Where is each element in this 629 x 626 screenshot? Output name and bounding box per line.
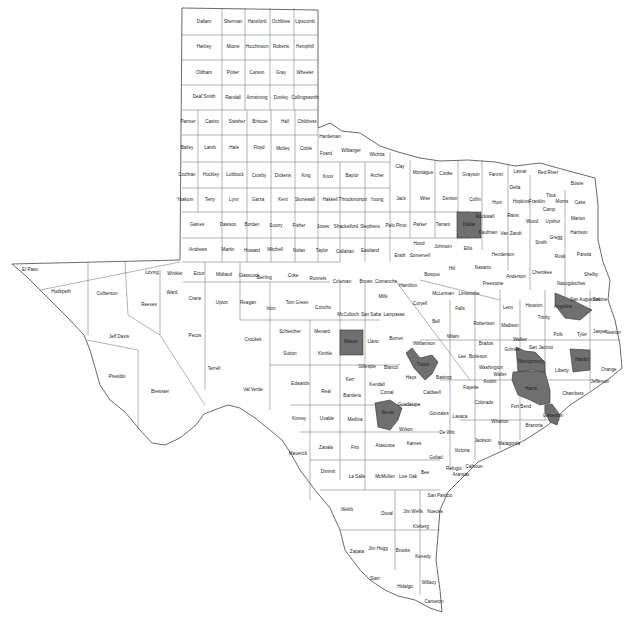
- county-label: Anderson: [506, 274, 526, 279]
- county-label: Fort Bend: [511, 404, 532, 409]
- county-label: Scurry: [269, 223, 283, 228]
- county-label: Hartley: [197, 44, 212, 49]
- county-label: Dimmit: [321, 469, 336, 474]
- county-label: Somervell: [410, 253, 430, 258]
- county-label: Sabine: [593, 297, 608, 302]
- county-label: Dawson: [220, 222, 237, 227]
- county-label: Bosque: [424, 272, 440, 277]
- county-label: Johnson: [434, 244, 452, 249]
- county-label: Reeves: [141, 302, 157, 307]
- county-label: Bastrop: [436, 375, 452, 380]
- county-label: Erath: [395, 253, 406, 258]
- county-label: Kinney: [292, 416, 307, 421]
- county-label: Collingsworth: [291, 95, 319, 100]
- county-label: Marion: [571, 216, 585, 221]
- county-label: Kenedy: [415, 554, 431, 559]
- county-label: Jeff Davis: [109, 334, 130, 339]
- county-label: Castro: [205, 119, 219, 124]
- county-label: Collin: [469, 197, 481, 202]
- county-label: Nueces: [427, 509, 443, 514]
- county-label: Guadalupe: [398, 402, 421, 407]
- county-label: La Salle: [349, 474, 366, 479]
- county-label: Loving: [145, 270, 159, 275]
- county-label: San Jacinto: [529, 345, 553, 350]
- county-label: Washington: [479, 365, 504, 370]
- county-label: Wise: [420, 196, 431, 201]
- county-label: Brazos: [479, 341, 494, 346]
- county-label: Winkler: [167, 271, 183, 276]
- county-label: Nacogdoches: [557, 281, 586, 286]
- county-label: Hays: [406, 375, 417, 380]
- county-label: Trinity: [538, 315, 551, 320]
- county-label: Frio: [351, 445, 359, 450]
- county-label: Kerr: [346, 377, 355, 382]
- county-label: Rockwall: [476, 214, 494, 219]
- county-label: Mitchell: [267, 247, 283, 252]
- county-label: Coke: [288, 273, 299, 278]
- county-label: Midland: [216, 272, 233, 277]
- county-label: Cameron: [425, 599, 444, 604]
- county-label: Jim Hogg: [368, 546, 388, 551]
- county-label: Throckmorton: [339, 197, 368, 202]
- county-label: Jones: [317, 224, 330, 229]
- county-label: Borden: [245, 222, 260, 227]
- county-label: Navarro: [475, 265, 492, 270]
- county-label: Van Zandt: [501, 231, 523, 236]
- county-label: Young: [371, 197, 384, 202]
- county-label: Edwards: [291, 381, 310, 386]
- county-label: Willacy: [422, 580, 437, 585]
- county-label: Crockett: [244, 337, 262, 342]
- county-label: Dickens: [275, 173, 292, 178]
- county-label: Lamar: [513, 169, 526, 174]
- county-label: Cottle: [300, 146, 312, 151]
- county-label: Brewster: [151, 389, 170, 394]
- county-label: Kaufman: [479, 230, 498, 235]
- county-label: Parmer: [180, 119, 196, 124]
- county-label: Martin: [222, 247, 235, 252]
- county-label: Maverick: [289, 451, 308, 456]
- county-label: Limestone: [458, 291, 480, 296]
- county-label: Hutchinson: [246, 44, 269, 49]
- county-label: Hall: [281, 119, 289, 124]
- county-label: Ochiltree: [272, 19, 291, 24]
- county-label: Nolan: [293, 248, 305, 253]
- county-label: Refugio: [446, 466, 462, 471]
- county-label: Wilson: [399, 427, 413, 432]
- county-label: Starr: [370, 576, 380, 581]
- county-label: Victoria: [454, 448, 470, 453]
- county-label: Val Verde: [243, 387, 263, 392]
- county-label: Harris: [525, 386, 538, 391]
- county-label: Hardin: [575, 357, 589, 362]
- county-label: Aransas: [453, 472, 471, 477]
- county-label: Shelby: [584, 272, 599, 277]
- county-label: Gray: [276, 70, 287, 75]
- county-label: Kendall: [369, 382, 384, 387]
- county-label: Montgomery: [518, 359, 544, 364]
- county-label: Mason: [344, 339, 358, 344]
- county-label: Pecos: [189, 333, 202, 338]
- county-label: Travis: [417, 362, 430, 367]
- county-label: Lamb: [204, 145, 216, 150]
- county-label: Leon: [503, 305, 514, 310]
- county-label: Coleman: [333, 279, 352, 284]
- county-label: Dallam: [197, 19, 211, 24]
- county-label: Newton: [605, 330, 621, 335]
- county-label: Morris: [556, 199, 569, 204]
- county-label: Bandera: [343, 393, 361, 398]
- county-label: Swisher: [229, 119, 246, 124]
- county-label: McMullen: [375, 474, 395, 479]
- county-label: Howard: [244, 248, 260, 253]
- county-label: Bexar: [382, 410, 394, 415]
- county-label: Wood: [526, 219, 538, 224]
- county-label: Gonzales: [429, 411, 449, 416]
- county-label: Bowie: [571, 181, 584, 186]
- county-label: Cass: [575, 200, 586, 205]
- county-label: Angelina: [554, 304, 572, 309]
- county-label: San Saba: [361, 312, 382, 317]
- county-label: Terrell: [208, 366, 221, 371]
- county-label: Cooke: [439, 171, 453, 176]
- county-label: Wheeler: [296, 70, 314, 75]
- county-label: Crane: [189, 296, 202, 301]
- county-label: Hamilton: [399, 283, 418, 288]
- county-label: Briscoe: [252, 119, 268, 124]
